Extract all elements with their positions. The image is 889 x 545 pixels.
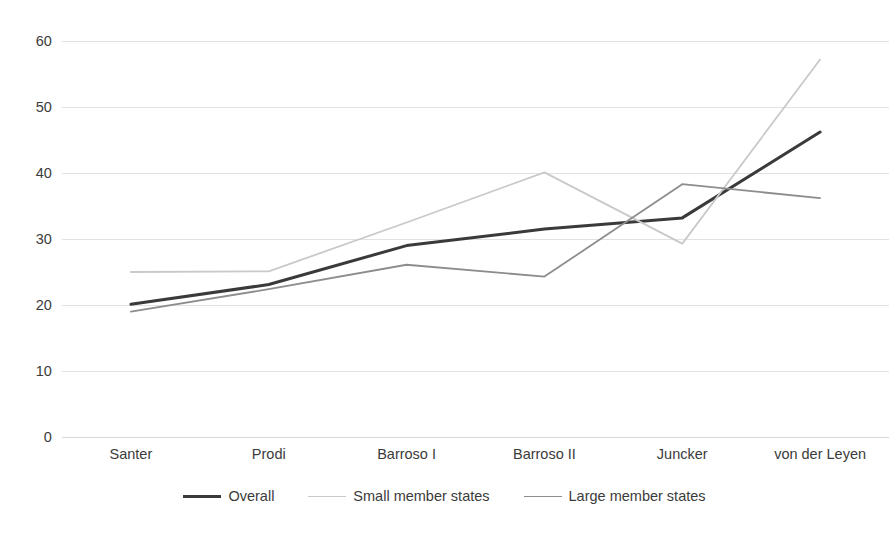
legend-line-icon — [308, 496, 346, 497]
y-axis-tick-label: 0 — [6, 430, 52, 445]
x-axis-tick-label: Santer — [110, 446, 153, 463]
x-axis-tick-label: Prodi — [252, 446, 286, 463]
y-axis-tick-label: 10 — [6, 364, 52, 379]
legend-item-label: Overall — [228, 489, 274, 504]
series-line — [131, 184, 820, 311]
x-axis-tick-label: Barroso I — [377, 446, 436, 463]
series-layer — [62, 41, 889, 437]
x-axis-tick-label: Barroso II — [513, 446, 576, 463]
legend-item-label: Large member states — [569, 489, 706, 504]
legend-line-icon — [183, 495, 221, 498]
y-axis-tick-label: 60 — [6, 34, 52, 49]
x-axis-tick-label: von der Leyen — [774, 446, 866, 463]
plot-area — [62, 41, 889, 437]
x-axis-tick-label: Juncker — [657, 446, 708, 463]
line-chart: 0102030405060 SanterProdiBarroso IBarros… — [0, 0, 889, 545]
legend-item[interactable]: Overall — [183, 489, 274, 504]
legend-item[interactable]: Large member states — [524, 489, 706, 504]
x-axis: SanterProdiBarroso IBarroso IIJunckervon… — [62, 446, 889, 472]
gridline — [62, 437, 889, 438]
legend-line-icon — [524, 496, 562, 497]
y-axis: 0102030405060 — [0, 41, 52, 437]
y-axis-tick-label: 20 — [6, 298, 52, 313]
series-line — [131, 59, 820, 272]
y-axis-tick-label: 50 — [6, 100, 52, 115]
chart-legend: OverallSmall member statesLarge member s… — [0, 489, 889, 504]
legend-item[interactable]: Small member states — [308, 489, 489, 504]
series-line — [131, 132, 820, 304]
y-axis-tick-label: 30 — [6, 232, 52, 247]
legend-item-label: Small member states — [353, 489, 489, 504]
y-axis-tick-label: 40 — [6, 166, 52, 181]
